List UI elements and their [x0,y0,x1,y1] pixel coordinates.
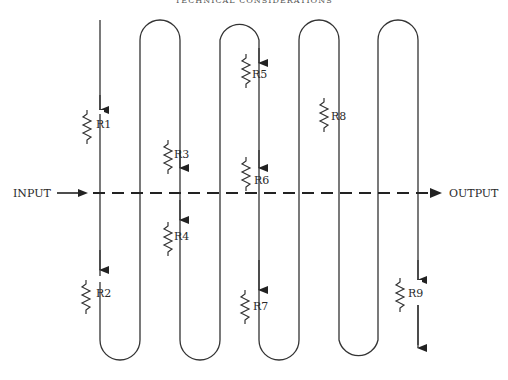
serpentine-circuit-diagram: TECHNICAL CONSIDERATIONS R1 R2 [0,0,508,380]
resistor-r7-icon [241,290,249,324]
label-r2: R2 [96,287,111,300]
label-r5: R5 [252,68,267,81]
resistor-r8-icon [320,98,328,132]
resistor-r6-icon [242,157,250,191]
input-arrow-icon [57,189,88,197]
signal-path-dashed [93,188,442,198]
resistor-r9-icon [396,278,404,312]
label-r6: R6 [254,174,269,187]
header-partial: TECHNICAL CONSIDERATIONS [175,0,333,5]
resistor-r4-icon [164,222,172,256]
resistor-r2-icon [82,280,90,314]
label-r3: R3 [174,148,189,161]
output-arrow-icon [430,188,442,198]
resistors [82,54,404,324]
label-r1: R1 [96,118,111,131]
resistor-r1-icon [83,110,91,144]
label-r7: R7 [253,300,268,313]
label-r8: R8 [331,110,346,123]
resistor-r5-icon [242,54,250,88]
output-label: OUTPUT [449,187,499,200]
label-r4: R4 [174,230,189,243]
label-r9: R9 [408,287,423,300]
input-label: INPUT [13,187,51,200]
resistor-r3-icon [164,140,172,174]
